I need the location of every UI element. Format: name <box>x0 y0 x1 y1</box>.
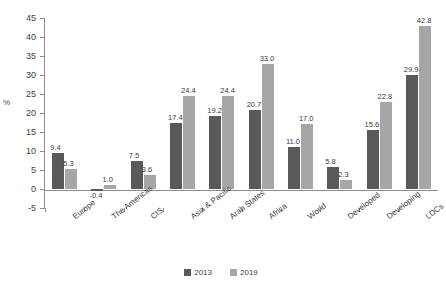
legend-swatch-icon <box>230 269 237 276</box>
bar-value-label: 5.3 <box>63 160 73 168</box>
bar-value-label: 24.4 <box>220 87 235 95</box>
bar-value-label: 22.8 <box>378 93 393 101</box>
bar-2019-developed <box>340 180 352 189</box>
bar-value-label: 2.3 <box>338 171 348 179</box>
bar-2019-developing <box>380 102 392 189</box>
y-tick-label: 20 <box>14 109 36 118</box>
bar-value-label: 5.8 <box>325 158 335 166</box>
bar-2019-world <box>301 124 313 189</box>
legend-item[interactable]: 2013 <box>184 268 212 277</box>
plot-area: 9.45.3-0.41.07.53.617.424.419.224.420.73… <box>45 18 438 208</box>
bar-2019-asia-pacific <box>183 96 195 189</box>
bar-2013-africa <box>249 110 261 189</box>
bar-value-label: 7.5 <box>129 152 139 160</box>
bar-value-label: 24.4 <box>181 87 196 95</box>
y-tick-label: 35 <box>14 52 36 61</box>
bar-2013-developing <box>367 130 379 189</box>
legend-item[interactable]: 2019 <box>230 268 258 277</box>
bar-value-label: 33.0 <box>260 55 275 63</box>
y-axis-title: % <box>3 98 10 107</box>
y-tick-label: 25 <box>14 90 36 99</box>
bar-2019-the-americas <box>104 185 116 189</box>
y-tick-label: -5 <box>14 204 36 213</box>
bar-value-label: 9.4 <box>50 144 60 152</box>
bar-2013-arab-states <box>209 116 221 189</box>
y-tick-label: 30 <box>14 71 36 80</box>
bar-2019-africa <box>262 64 274 189</box>
legend-label: 2013 <box>194 268 212 277</box>
bar-2013-world <box>288 147 300 189</box>
y-tick-label: 5 <box>14 166 36 175</box>
bar-value-label: 1.0 <box>102 176 112 184</box>
bar-2013-ldcs <box>406 75 418 189</box>
bar-value-label: 15.6 <box>365 121 380 129</box>
bar-value-label: 17.4 <box>168 114 183 122</box>
bar-2019-ldcs <box>419 26 431 189</box>
y-tick-label: 10 <box>14 147 36 156</box>
y-tick-label: 15 <box>14 128 36 137</box>
bar-2019-europe <box>65 169 77 189</box>
y-tick-label: 0 <box>14 185 36 194</box>
legend-swatch-icon <box>184 269 191 276</box>
bar-value-label: 17.0 <box>299 115 314 123</box>
bar-value-label: 42.8 <box>417 17 432 25</box>
bar-2013-asia-pacific <box>170 123 182 189</box>
x-tick-mark <box>45 208 46 212</box>
y-tick-label: 45 <box>14 14 36 23</box>
bar-value-label: 20.7 <box>247 101 262 109</box>
y-tick-label: 40 <box>14 33 36 42</box>
bar-value-label: 19.2 <box>207 107 222 115</box>
bar-2019-arab-states <box>222 96 234 189</box>
legend-label: 2019 <box>240 268 258 277</box>
bar-value-label: 29.9 <box>404 66 419 74</box>
bar-value-label: 3.6 <box>142 166 152 174</box>
bar-2013-cis <box>131 161 143 190</box>
chart-legend: 20132019 <box>0 268 442 277</box>
bar-value-label: 11.0 <box>286 138 300 146</box>
